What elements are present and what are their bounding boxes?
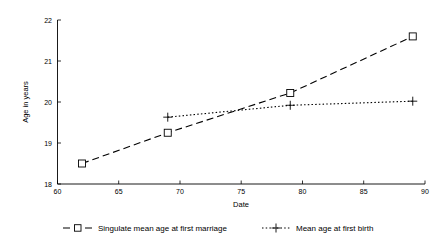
y-tick-label-20: 20	[44, 99, 52, 106]
legend-label-first-marriage: Singulate mean age at first marriage	[98, 224, 228, 233]
series-markers-first-birth	[163, 97, 417, 122]
marker-plus-69	[163, 113, 172, 122]
x-tick-label-80: 80	[299, 188, 307, 195]
x-tick-label-85: 85	[360, 188, 368, 195]
legend-entry-first-birth[interactable]: Mean age at first birth	[262, 224, 373, 234]
x-axis-title: Date	[233, 200, 249, 209]
chart-legend: Singulate mean age at first marriage Mea…	[63, 224, 373, 234]
y-tick-label-21: 21	[44, 58, 52, 65]
marker-square-69	[164, 129, 171, 136]
y-tick-label-22: 22	[44, 17, 52, 24]
y-tick-label-18: 18	[44, 181, 52, 188]
series-line-first-marriage-path	[82, 36, 413, 163]
x-tick-label-60: 60	[54, 188, 62, 195]
x-axis-ticks	[58, 181, 426, 185]
x-tick-label-90: 90	[421, 188, 429, 195]
x-tick-label-65: 65	[115, 188, 123, 195]
legend-swatch-first-birth-marker	[272, 224, 281, 233]
x-tick-label-70: 70	[176, 188, 184, 195]
legend-entry-first-marriage[interactable]: Singulate mean age at first marriage	[63, 224, 228, 233]
chart-figure: 22 21 20 19 18 60 65 70 75 80 85 90 Date…	[0, 0, 444, 246]
legend-label-first-birth: Mean age at first birth	[296, 224, 373, 233]
y-axis-ticks	[58, 20, 62, 184]
marker-square-62	[79, 160, 86, 167]
legend-swatch-first-marriage-marker	[75, 225, 82, 232]
marker-plus-79	[286, 101, 295, 110]
y-axis-title: Age in years	[21, 81, 30, 123]
x-tick-label-75: 75	[237, 188, 245, 195]
y-tick-label-19: 19	[44, 140, 52, 147]
marker-plus-89	[408, 97, 417, 106]
marker-square-79	[287, 89, 294, 96]
marker-square-89	[409, 33, 416, 40]
line-chart: 22 21 20 19 18 60 65 70 75 80 85 90 Date…	[0, 0, 444, 246]
